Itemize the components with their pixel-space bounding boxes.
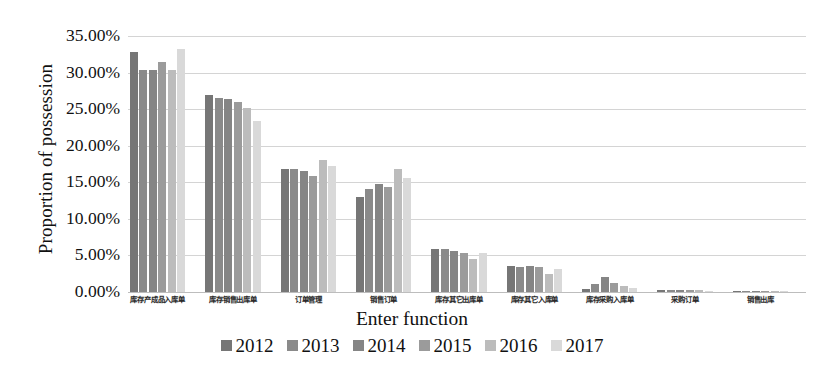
- x-axis-category-label: 销售订单: [344, 294, 424, 305]
- bar[interactable]: [629, 288, 637, 292]
- legend-item[interactable]: 2014: [353, 336, 406, 355]
- bar[interactable]: [554, 269, 562, 292]
- legend-swatch-icon: [287, 340, 298, 351]
- bar[interactable]: [450, 251, 458, 292]
- legend-swatch-icon: [353, 340, 364, 351]
- bar[interactable]: [601, 277, 609, 292]
- x-axis-category-label: 库存产成品入库单: [118, 294, 198, 305]
- bar-group: [281, 36, 337, 292]
- legend-label: 2012: [236, 336, 274, 355]
- bar[interactable]: [205, 95, 213, 292]
- bar[interactable]: [526, 266, 534, 292]
- bar[interactable]: [375, 184, 383, 292]
- legend-item[interactable]: 2016: [485, 336, 538, 355]
- bar-group: [431, 36, 487, 292]
- bar[interactable]: [168, 70, 176, 292]
- y-axis-tick-label: 35.00%: [10, 27, 120, 44]
- legend-item[interactable]: 2015: [419, 336, 472, 355]
- bar[interactable]: [771, 291, 779, 292]
- y-axis-tick-labels: 0.00%5.00%10.00%15.00%20.00%25.00%30.00%…: [0, 0, 128, 330]
- bar[interactable]: [780, 291, 788, 292]
- bar[interactable]: [516, 267, 524, 292]
- bar-group: [582, 36, 638, 292]
- bar[interactable]: [667, 290, 675, 292]
- bar[interactable]: [657, 290, 665, 292]
- legend: 201220132014201520162017: [0, 336, 824, 355]
- bar[interactable]: [356, 197, 364, 292]
- legend-swatch-icon: [419, 340, 430, 351]
- bar[interactable]: [479, 253, 487, 292]
- bar[interactable]: [742, 291, 750, 292]
- y-axis-tick-label: 0.00%: [10, 283, 120, 300]
- plot-area: [128, 36, 806, 292]
- bar[interactable]: [328, 166, 336, 292]
- bar-group: [356, 36, 412, 292]
- bar[interactable]: [234, 102, 242, 292]
- bar[interactable]: [253, 121, 261, 292]
- bar[interactable]: [158, 62, 166, 292]
- legend-item[interactable]: 2017: [551, 336, 604, 355]
- bar[interactable]: [733, 291, 741, 292]
- bar[interactable]: [300, 171, 308, 292]
- bar[interactable]: [243, 108, 251, 292]
- bar[interactable]: [591, 284, 599, 292]
- x-axis-title: Enter function: [0, 308, 824, 330]
- y-axis-tick-label: 30.00%: [10, 64, 120, 81]
- bar[interactable]: [224, 99, 232, 292]
- bar[interactable]: [139, 70, 147, 292]
- bar[interactable]: [177, 49, 185, 292]
- bar-group: [733, 36, 789, 292]
- bar-group: [657, 36, 713, 292]
- bar[interactable]: [384, 187, 392, 292]
- y-axis-tick-label: 20.00%: [10, 137, 120, 154]
- x-axis-category-label: 库存其它入库单: [494, 294, 574, 305]
- bar[interactable]: [507, 266, 515, 292]
- bar-group: [507, 36, 563, 292]
- legend-label: 2013: [302, 336, 340, 355]
- y-axis-tick-label: 5.00%: [10, 246, 120, 263]
- bar[interactable]: [545, 274, 553, 292]
- bar[interactable]: [431, 249, 439, 292]
- bar-chart: Proportion of possession 0.00%5.00%10.00…: [0, 0, 824, 369]
- bar[interactable]: [403, 178, 411, 292]
- bar[interactable]: [365, 189, 373, 292]
- legend-label: 2015: [434, 336, 472, 355]
- x-axis-category-label: 订单管理: [268, 294, 348, 305]
- bar[interactable]: [460, 253, 468, 292]
- x-axis-category-label: 采购订单: [645, 294, 725, 305]
- legend-swatch-icon: [551, 340, 562, 351]
- bar[interactable]: [290, 169, 298, 292]
- legend-label: 2017: [566, 336, 604, 355]
- bar[interactable]: [319, 160, 327, 292]
- bar[interactable]: [469, 259, 477, 292]
- x-axis-category-label: 库存销售出库单: [193, 294, 273, 305]
- bar[interactable]: [752, 291, 760, 292]
- bar-group: [130, 36, 186, 292]
- bar[interactable]: [705, 291, 713, 292]
- y-axis-tick-label: 15.00%: [10, 173, 120, 190]
- bar[interactable]: [620, 286, 628, 292]
- y-axis-tick-label: 25.00%: [10, 100, 120, 117]
- bar[interactable]: [695, 290, 703, 292]
- x-axis-category-label: 库存采购入库单: [570, 294, 650, 305]
- bar[interactable]: [676, 290, 684, 292]
- bar[interactable]: [281, 169, 289, 292]
- bar[interactable]: [610, 283, 618, 292]
- bar[interactable]: [686, 290, 694, 292]
- bar-group: [205, 36, 261, 292]
- legend-swatch-icon: [485, 340, 496, 351]
- bar[interactable]: [441, 249, 449, 292]
- x-axis-category-label: 库存其它出库单: [419, 294, 499, 305]
- x-axis-category-label: 销售出库: [720, 294, 800, 305]
- bar[interactable]: [309, 176, 317, 292]
- bar[interactable]: [761, 291, 769, 292]
- bar[interactable]: [215, 98, 223, 292]
- bar[interactable]: [582, 289, 590, 292]
- bar[interactable]: [130, 52, 138, 292]
- bar[interactable]: [394, 169, 402, 292]
- bar[interactable]: [535, 267, 543, 292]
- bar[interactable]: [149, 70, 157, 292]
- legend-item[interactable]: 2012: [221, 336, 274, 355]
- legend-label: 2016: [500, 336, 538, 355]
- legend-item[interactable]: 2013: [287, 336, 340, 355]
